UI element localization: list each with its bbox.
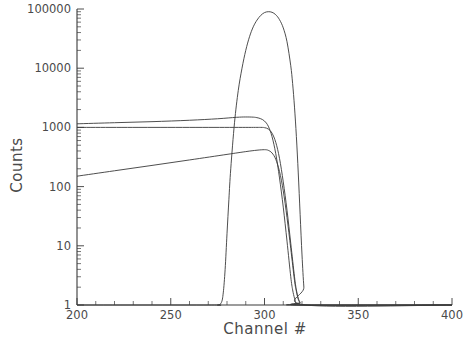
curve-upper-plateau-curve: [77, 117, 452, 305]
x-tick-label: 200: [66, 308, 88, 322]
axis-lines: [77, 9, 452, 305]
x-tick-label: 250: [160, 308, 182, 322]
y-axis-tick-labels: 110100100010000100000: [27, 2, 71, 312]
curve-lower-plateau-curve: [77, 127, 452, 305]
y-axis-ticks: [77, 9, 84, 305]
figure-canvas: 110100100010000100000 200250300350400 Ch…: [0, 0, 467, 352]
chart-svg: 110100100010000100000 200250300350400 Ch…: [0, 0, 467, 352]
y-tick-label: 100000: [27, 2, 71, 16]
x-axis-ticks: [77, 298, 452, 305]
data-curves: [77, 12, 452, 307]
curve-rising-ramp-curve: [77, 150, 452, 305]
y-tick-label: 10: [56, 239, 71, 253]
y-tick-label: 1000: [42, 120, 71, 134]
y-tick-label: 100: [49, 180, 71, 194]
x-tick-label: 350: [347, 308, 369, 322]
y-axis-label: Counts: [8, 137, 26, 192]
x-tick-label: 400: [441, 308, 463, 322]
y-tick-label: 10000: [34, 61, 71, 75]
x-axis-label: Channel #: [223, 320, 306, 338]
curve-peak-curve: [77, 12, 452, 307]
